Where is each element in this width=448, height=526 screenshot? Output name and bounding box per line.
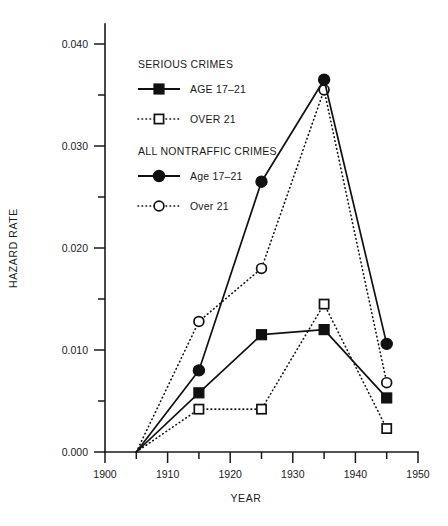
- y-axis-ticks: 0.0000.0100.0200.0300.040: [62, 38, 105, 458]
- data-point-open-square: [154, 114, 163, 123]
- x-tick-label: 1910: [156, 468, 180, 480]
- data-point-filled-circle: [256, 176, 267, 187]
- x-axis-ticks: 190019101920193019401950: [93, 452, 430, 480]
- data-point-filled-square: [382, 393, 392, 403]
- y-tick-label: 0.040: [62, 38, 88, 50]
- data-series-group: [136, 74, 392, 452]
- legend-entry[interactable]: AGE 17–21: [138, 83, 246, 95]
- series-filled-circle: [136, 74, 392, 452]
- legend-entry-label: AGE 17–21: [190, 83, 246, 95]
- legend-entry[interactable]: OVER 21: [138, 113, 236, 125]
- y-axis-title: HAZARD RATE: [7, 208, 19, 288]
- series-filled-square: [136, 325, 391, 452]
- data-point-filled-square: [194, 388, 204, 398]
- legend-entry-label: Age 17–21: [190, 170, 243, 182]
- hazard-rate-line-chart: 0.0000.0100.0200.0300.040 19001910192019…: [0, 0, 448, 526]
- y-tick-label: 0.020: [62, 242, 88, 254]
- legend-group-heading: ALL NONTRAFFIC CRIMES: [138, 145, 277, 157]
- x-tick-label: 1900: [93, 468, 117, 480]
- y-tick-label: 0.010: [62, 344, 88, 356]
- data-point-filled-square: [154, 84, 164, 94]
- legend-entry[interactable]: Age 17–21: [138, 170, 243, 182]
- data-point-open-square: [194, 405, 203, 414]
- chart-legend: SERIOUS CRIMESAGE 17–21OVER 21ALL NONTRA…: [138, 58, 277, 212]
- chart-figure: 0.0000.0100.0200.0300.040 19001910192019…: [0, 0, 448, 526]
- y-tick-label: 0.030: [62, 140, 88, 152]
- x-tick-label: 1920: [219, 468, 243, 480]
- legend-group-heading: SERIOUS CRIMES: [138, 58, 233, 70]
- series-open-square: [136, 300, 391, 453]
- legend-entry-label: Over 21: [190, 200, 229, 212]
- data-point-filled-circle: [319, 74, 330, 85]
- data-point-filled-square: [319, 325, 329, 335]
- x-tick-label: 1940: [344, 468, 368, 480]
- data-point-open-circle: [154, 201, 164, 211]
- data-point-open-square: [320, 300, 329, 309]
- data-point-open-square: [257, 405, 266, 414]
- data-point-open-circle: [257, 264, 267, 274]
- data-point-open-square: [382, 424, 391, 433]
- x-axis-title: YEAR: [231, 492, 262, 504]
- data-point-filled-circle: [193, 365, 204, 376]
- data-point-filled-circle: [381, 338, 392, 349]
- legend-entry-label: OVER 21: [190, 113, 236, 125]
- x-tick-label: 1950: [406, 468, 430, 480]
- series-open-circle: [136, 85, 391, 452]
- legend-entry[interactable]: Over 21: [138, 200, 229, 212]
- data-point-open-circle: [194, 317, 204, 327]
- x-tick-label: 1930: [281, 468, 305, 480]
- data-point-filled-circle: [153, 170, 164, 181]
- data-point-open-circle: [382, 378, 392, 388]
- data-point-filled-square: [257, 330, 267, 340]
- y-tick-label: 0.000: [62, 446, 88, 458]
